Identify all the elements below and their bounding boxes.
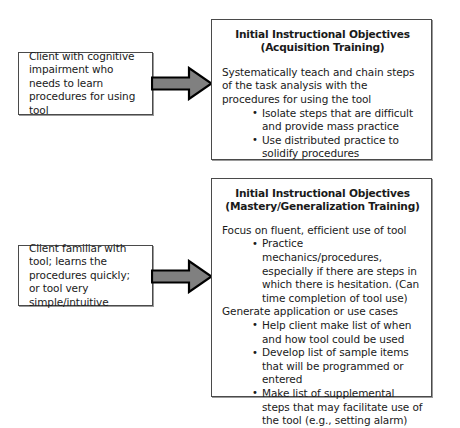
list-item: Make list of supplemental steps that may… — [252, 387, 423, 428]
client-condition-text: Client familiar with tool; learns the pr… — [29, 242, 143, 310]
objectives-box-mastery: Initial Instructional Objectives (Master… — [211, 178, 432, 397]
list-item: Isolate steps that are difficult and pro… — [252, 107, 423, 134]
client-condition-text: Client with cognitive impairment who nee… — [29, 50, 143, 118]
list-item: Practice mechanics/procedures, especiall… — [252, 237, 423, 305]
objectives-box-acquisition: Initial Instructional Objectives (Acquis… — [211, 19, 432, 160]
right-arrow-icon-mastery — [151, 259, 213, 294]
objectives-bullet-list-primary: Practice mechanics/procedures, especiall… — [222, 237, 423, 305]
objectives-title: Initial Instructional Objectives (Acquis… — [222, 28, 423, 55]
list-item: Use distributed practice to solidify pro… — [252, 134, 423, 161]
list-item: Help client make list of when and how to… — [252, 319, 423, 346]
objectives-body: Focus on fluent, efficient use of tool P… — [222, 224, 423, 428]
objectives-title: Initial Instructional Objectives (Master… — [222, 187, 423, 214]
objectives-bullet-list-secondary: Help client make list of when and how to… — [222, 319, 423, 428]
objectives-lead-text: Systematically teach and chain steps of … — [222, 66, 423, 107]
objectives-bullet-list: Isolate steps that are difficult and pro… — [222, 107, 423, 161]
right-arrow-glyph — [151, 259, 213, 294]
objectives-content: Initial Instructional Objectives (Acquis… — [212, 20, 431, 159]
client-condition-box-acquisition: Client with cognitive impairment who nee… — [18, 52, 153, 115]
objectives-lead-text: Focus on fluent, efficient use of tool — [222, 224, 423, 238]
objectives-body: Systematically teach and chain steps of … — [222, 66, 423, 161]
objectives-lead-text-secondary: Generate application or use cases — [222, 305, 423, 319]
list-item: Develop list of sample items that will b… — [252, 346, 423, 387]
client-condition-box-mastery: Client familiar with tool; learns the pr… — [18, 245, 153, 306]
right-arrow-glyph — [151, 66, 213, 101]
right-arrow-icon-acquisition — [151, 66, 213, 101]
objectives-content: Initial Instructional Objectives (Master… — [212, 179, 431, 396]
